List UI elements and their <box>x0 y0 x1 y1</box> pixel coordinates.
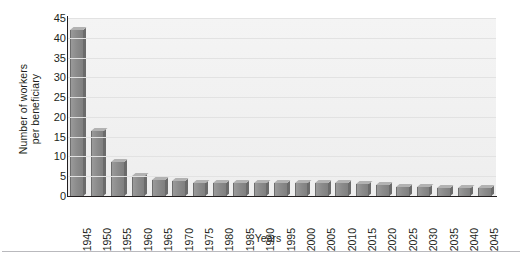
bar-side-face <box>348 181 351 196</box>
plot-area <box>68 18 496 196</box>
bar <box>213 180 226 196</box>
chart-figure: Number of workers per beneficiary 051015… <box>0 0 522 259</box>
bar-side-face <box>165 178 168 196</box>
bar-front-face <box>315 183 329 196</box>
gridline <box>68 117 496 118</box>
y-axis-title-line-1: Number of workers <box>17 64 30 154</box>
gridline <box>68 77 496 78</box>
y-tick-label: 30 <box>45 72 66 83</box>
bar <box>417 184 430 196</box>
bar-side-face <box>368 182 371 196</box>
bar <box>458 185 471 196</box>
y-tick-label: 0 <box>45 191 66 202</box>
gridline <box>68 38 496 39</box>
bar-side-face <box>287 181 290 196</box>
bar-front-face <box>437 188 451 196</box>
bar-side-face <box>226 181 229 196</box>
gridline <box>68 137 496 138</box>
bar-front-face <box>111 162 125 196</box>
bar <box>152 177 165 196</box>
gridline <box>68 176 496 177</box>
bar <box>70 27 83 196</box>
bar-front-face <box>213 183 227 196</box>
x-axis-title: Years <box>0 232 522 244</box>
x-axis-tick-labels: 1945195019551960196519701975198019851990… <box>68 198 496 232</box>
bar <box>478 185 491 196</box>
bar-side-face <box>103 128 106 196</box>
y-tick-label: 15 <box>45 131 66 142</box>
bar <box>335 180 348 196</box>
bar-front-face <box>152 180 166 196</box>
footer-divider <box>2 251 520 252</box>
bar-top-face <box>295 180 311 183</box>
bar <box>233 180 246 196</box>
bar <box>315 180 328 196</box>
bar-top-face <box>458 185 474 188</box>
y-axis-title-line-2: per beneficiary <box>29 74 42 144</box>
bar-front-face <box>376 185 390 196</box>
bar-front-face <box>233 183 247 196</box>
y-tick-label: 25 <box>45 92 66 103</box>
bar <box>295 180 308 196</box>
y-tick-label: 40 <box>45 32 66 43</box>
bar-side-face <box>246 181 249 196</box>
bar-front-face <box>335 183 349 196</box>
y-tick-label: 45 <box>45 13 66 24</box>
bar-side-face <box>389 183 392 196</box>
bar-front-face <box>70 30 84 196</box>
gridline <box>68 18 496 19</box>
y-axis-tick-labels: 051015202530354045 <box>45 11 66 201</box>
bar <box>274 180 287 196</box>
bar-side-face <box>328 181 331 196</box>
bar <box>396 184 409 196</box>
bar-side-face <box>124 160 127 196</box>
bar-front-face <box>274 183 288 196</box>
y-tick-label: 35 <box>45 52 66 63</box>
y-tick-label: 10 <box>45 151 66 162</box>
bar-side-face <box>205 181 208 196</box>
bar-series <box>68 18 496 196</box>
bar-top-face <box>254 180 270 183</box>
gridline <box>68 58 496 59</box>
bar <box>356 181 369 196</box>
gridline <box>68 97 496 98</box>
x-axis-title-text: Years <box>255 232 281 244</box>
gridline <box>68 156 496 157</box>
y-tick-label: 20 <box>45 111 66 122</box>
bar <box>254 180 267 196</box>
bar <box>91 128 104 196</box>
bar-side-face <box>185 179 188 196</box>
bar <box>437 185 450 196</box>
bar <box>193 180 206 196</box>
bar <box>172 178 185 196</box>
bar <box>376 182 389 196</box>
bar-front-face <box>478 188 492 196</box>
bar-front-face <box>172 181 186 196</box>
bar-side-face <box>83 28 86 196</box>
y-tick-label: 5 <box>45 171 66 182</box>
bar <box>111 159 124 196</box>
y-axis-title: Number of workers per beneficiary <box>12 39 46 179</box>
